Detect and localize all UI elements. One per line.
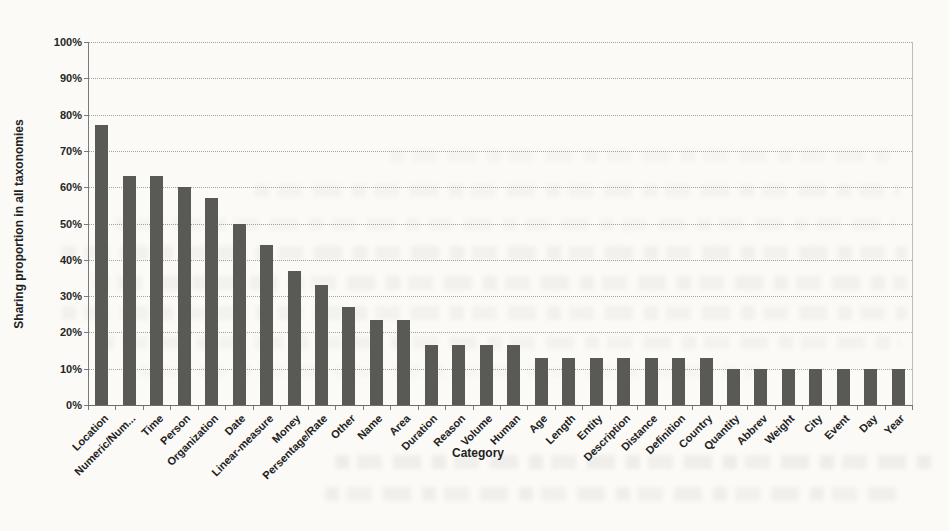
bar <box>178 187 191 405</box>
y-tick-label: 10% <box>0 363 82 375</box>
y-tick-mark <box>84 332 88 333</box>
x-tick-mark <box>857 406 858 410</box>
x-tick-mark <box>555 406 556 410</box>
x-tick-mark <box>308 406 309 410</box>
bar <box>864 369 877 405</box>
y-tick-mark <box>84 42 88 43</box>
x-tick-mark <box>527 406 528 410</box>
ghost-text-bleedthrough <box>255 184 900 197</box>
bar <box>205 198 218 405</box>
bar <box>150 176 163 405</box>
x-tick-mark <box>335 406 336 410</box>
x-tick-mark <box>390 406 391 410</box>
x-tick-mark <box>610 406 611 410</box>
y-gridline <box>88 187 912 188</box>
plot-border-right <box>912 42 913 405</box>
bar <box>370 320 383 405</box>
y-tick-label: 90% <box>0 72 82 84</box>
ghost-text-bleedthrough <box>100 336 900 349</box>
x-tick-mark <box>170 406 171 410</box>
y-tick-mark <box>84 115 88 116</box>
y-axis-title: Sharing proportion in all taxonomies <box>12 119 26 328</box>
y-gridline <box>88 42 912 43</box>
x-tick-mark <box>473 406 474 410</box>
y-tick-mark <box>84 78 88 79</box>
x-tick-mark <box>253 406 254 410</box>
bar <box>123 176 136 405</box>
y-tick-mark <box>84 187 88 188</box>
x-tick-mark <box>885 406 886 410</box>
x-tick-mark <box>198 406 199 410</box>
y-tick-mark <box>84 151 88 152</box>
y-tick-mark <box>84 296 88 297</box>
bar <box>809 369 822 405</box>
bar <box>425 345 438 405</box>
x-tick-mark <box>720 406 721 410</box>
bar <box>645 358 658 405</box>
x-tick-mark <box>88 406 89 410</box>
bar <box>754 369 767 405</box>
x-tick-mark <box>637 406 638 410</box>
x-tick-mark <box>115 406 116 410</box>
bar <box>233 224 246 406</box>
bar <box>315 285 328 405</box>
x-tick-mark <box>418 406 419 410</box>
x-tick-mark <box>802 406 803 410</box>
x-tick-mark <box>665 406 666 410</box>
x-tick-mark <box>363 406 364 410</box>
y-tick-mark <box>84 224 88 225</box>
bar <box>617 358 630 405</box>
bar <box>892 369 905 405</box>
bar <box>288 271 301 405</box>
bar <box>562 358 575 405</box>
x-axis-title: Category <box>452 446 504 460</box>
x-tick-mark <box>445 406 446 410</box>
bar <box>700 358 713 405</box>
x-tick-mark <box>225 406 226 410</box>
bar <box>452 345 465 405</box>
bar <box>480 345 493 405</box>
x-tick-mark <box>582 406 583 410</box>
scanned-page: 0%10%20%30%40%50%60%70%80%90%100% Locati… <box>0 0 949 531</box>
bar <box>535 358 548 405</box>
x-tick-mark <box>143 406 144 410</box>
y-tick-label: 0% <box>0 399 82 411</box>
bar <box>95 125 108 405</box>
y-tick-mark <box>84 260 88 261</box>
bar <box>672 358 685 405</box>
y-gridline <box>88 151 912 152</box>
x-tick-mark <box>747 406 748 410</box>
bar <box>727 369 740 405</box>
y-axis-line <box>88 42 89 406</box>
bar <box>342 307 355 405</box>
x-tick-mark <box>280 406 281 410</box>
y-gridline <box>88 115 912 116</box>
x-tick-mark <box>775 406 776 410</box>
bar <box>837 369 850 405</box>
x-tick-mark <box>692 406 693 410</box>
x-tick-mark <box>830 406 831 410</box>
bar <box>397 320 410 405</box>
y-tick-label: 100% <box>0 36 82 48</box>
bar <box>590 358 603 405</box>
bar <box>260 245 273 405</box>
x-tick-mark <box>912 406 913 410</box>
bar <box>782 369 795 405</box>
bar <box>507 345 520 405</box>
y-gridline <box>88 78 912 79</box>
y-tick-mark <box>84 369 88 370</box>
x-tick-mark <box>500 406 501 410</box>
